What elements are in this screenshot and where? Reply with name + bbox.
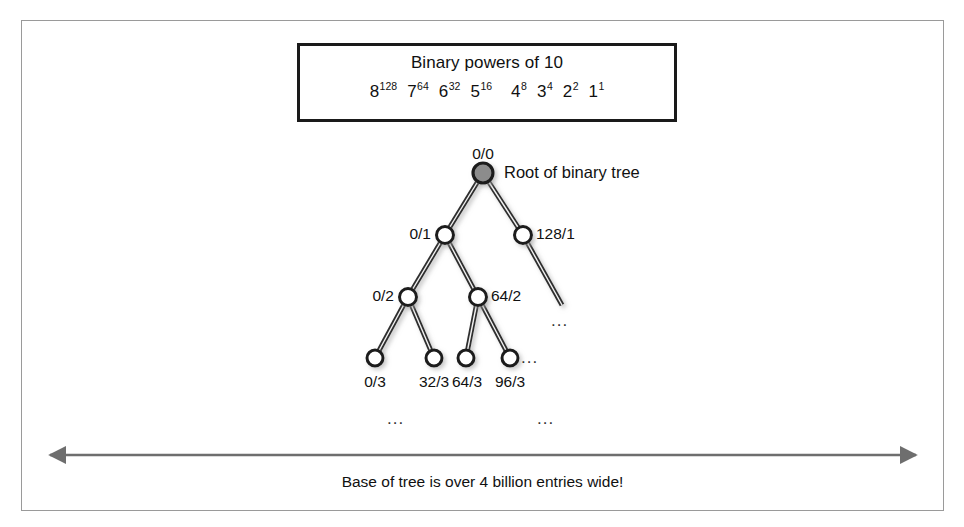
figure-container: Binary powers of 10 81287646325164834221…: [0, 0, 964, 527]
binary-tree-graphic: [0, 0, 964, 527]
edge-0-2-to-0-3: [375, 297, 408, 358]
tree-edges: [375, 173, 562, 358]
root-annotation: Root of binary tree: [504, 163, 640, 182]
right-base-ellipsis: ...: [537, 409, 554, 429]
node-label-96-3: 96/3: [484, 373, 536, 391]
tree-node-64-3: [458, 350, 474, 366]
tree-node-root: [473, 163, 493, 183]
node-label-0-3: 0/3: [349, 373, 401, 391]
tree-node-0-1: [437, 227, 454, 244]
tree-node-96-3: [502, 350, 518, 366]
left-base-ellipsis: ...: [387, 409, 404, 429]
node-label-128-1: 128/1: [536, 225, 606, 243]
tree-node-128-1: [515, 227, 532, 244]
tree-node-0-2: [400, 289, 417, 306]
edge-0-1-to-0-2: [408, 235, 445, 297]
leaf-row-ellipsis: ...: [521, 348, 538, 368]
edge-0-1-to-64-2: [445, 235, 478, 297]
node-label-root: 0/0: [445, 145, 521, 163]
tree-node-64-2: [470, 289, 487, 306]
right-subtree-ellipsis: ...: [551, 311, 568, 331]
tree-node-0-3: [367, 350, 383, 366]
base-width-caption: Base of tree is over 4 billion entries w…: [21, 473, 944, 491]
tree-node-32-3: [426, 350, 442, 366]
edge-64-2-to-96-3: [478, 297, 510, 358]
node-label-64-2: 64/2: [491, 287, 551, 305]
node-label-0-2: 0/2: [338, 287, 394, 305]
node-label-0-1: 0/1: [375, 225, 431, 243]
tree-nodes: [367, 163, 532, 366]
